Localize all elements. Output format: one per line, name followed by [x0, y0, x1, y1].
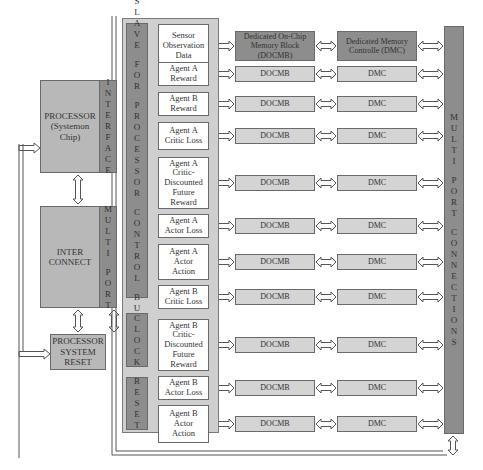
dmc-block: DMC — [337, 416, 417, 432]
dmc-block: DMC — [337, 254, 417, 270]
interconnect-block: INTER CONNECT — [40, 206, 100, 308]
docmb-header-block: Dedicated On-Chip Memory Block (DOCMB) — [235, 31, 315, 61]
register-label-box: Agent B Reward — [158, 92, 209, 116]
dmc-block: DMC — [337, 289, 417, 305]
control-bus-label: SLAVE FOR PROCESSOR CONTROL BUS — [134, 0, 141, 325]
interconnect-label: INTER CONNECT — [49, 247, 92, 268]
multiport-connections-label: MULTI PORT CONNECTIONS — [450, 112, 458, 348]
double-arrow-icon — [418, 383, 443, 393]
docmb-block: DOCMB — [235, 289, 315, 305]
register-label-box: Agent A Actor Action — [158, 244, 209, 280]
double-arrow-icon — [418, 221, 443, 231]
register-label-box: Agent A Critic- Discounted Future Reward — [158, 157, 209, 209]
control-bus-strip: SLAVE FOR PROCESSOR CONTROL BUS — [126, 23, 148, 298]
docmb-block: DOCMB — [235, 175, 315, 191]
double-arrow-icon — [316, 340, 336, 350]
dmc-block: DMC — [337, 337, 417, 353]
register-label-box: Agent A Actor Loss — [158, 214, 209, 238]
double-arrow-icon — [418, 99, 443, 109]
dmc-block: DMC — [337, 96, 417, 112]
dmc-header-block: Dedicated Memory Controlle (DMC) — [337, 31, 417, 61]
double-arrow-icon — [316, 383, 336, 393]
double-arrow-icon — [316, 178, 336, 188]
docmb-block: DOCMB — [235, 337, 315, 353]
double-arrow-icon — [418, 257, 443, 267]
register-label-box: Agent B Critic- Discounted Future Reward — [158, 319, 209, 371]
docmb-block: DOCMB — [235, 96, 315, 112]
double-arrow-icon — [418, 131, 443, 141]
docmb-block: DOCMB — [235, 128, 315, 144]
processor-block: PROCESSOR (Systemon Chip) — [40, 80, 100, 173]
docmb-block: DOCMB — [235, 218, 315, 234]
dmc-block: DMC — [337, 128, 417, 144]
processor-label: PROCESSOR (Systemon Chip) — [44, 111, 96, 142]
double-arrow-icon — [316, 292, 336, 302]
clock-strip: CLOCK — [126, 313, 148, 367]
interface-strip: INTERFACE — [99, 80, 117, 173]
processor-system-reset-block: PROCESSOR SYSTEM RESET — [50, 334, 106, 370]
dmc-block: DMC — [337, 66, 417, 82]
register-label-box: Agent B Actor Action — [158, 405, 209, 443]
double-arrow-icon — [316, 131, 336, 141]
docmb-block: DOCMB — [235, 380, 315, 396]
interface-label: INTERFACE — [105, 77, 112, 176]
register-label-box: Agent B Critic Loss — [158, 285, 209, 309]
dmc-block: DMC — [337, 218, 417, 234]
double-arrow-icon — [418, 41, 443, 51]
double-arrow-icon — [418, 178, 443, 188]
multiport-strip-left: MULTI PORT — [99, 206, 117, 308]
register-label-box: Agent A Critic Loss — [158, 122, 209, 150]
reset-strip: RESET — [126, 377, 148, 430]
dmc-block: DMC — [337, 175, 417, 191]
double-arrow-icon — [418, 419, 443, 429]
reset-label: RESET — [134, 376, 140, 431]
multiport-left-label: MULTI PORT — [104, 204, 112, 311]
multiport-connections-bar: MULTI PORT CONNECTIONS — [444, 26, 464, 434]
double-arrow-icon — [418, 292, 443, 302]
docmb-block: DOCMB — [235, 66, 315, 82]
docmb-block: DOCMB — [235, 416, 315, 432]
double-arrow-icon — [418, 340, 443, 350]
processor-system-reset-label: PROCESSOR SYSTEM RESET — [52, 336, 104, 367]
double-arrow-icon — [316, 221, 336, 231]
double-arrow-icon — [316, 257, 336, 267]
double-arrow-icon — [418, 69, 443, 79]
double-arrow-icon — [316, 41, 336, 51]
register-label-box: Agent B Actor Loss — [158, 376, 209, 400]
register-label-box: Agent A Reward — [158, 62, 209, 86]
docmb-block: DOCMB — [235, 254, 315, 270]
clock-label: CLOCK — [134, 313, 141, 368]
dmc-block: DMC — [337, 380, 417, 396]
double-arrow-icon — [316, 69, 336, 79]
double-arrow-icon — [316, 99, 336, 109]
double-arrow-icon — [316, 419, 336, 429]
